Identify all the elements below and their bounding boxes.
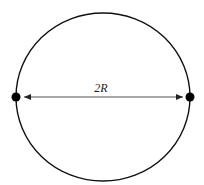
diameter-label: 2R <box>94 81 108 95</box>
right-endpoint-dot <box>186 93 195 102</box>
left-endpoint-dot <box>12 93 21 102</box>
circle-diameter-diagram: 2R <box>0 0 204 185</box>
